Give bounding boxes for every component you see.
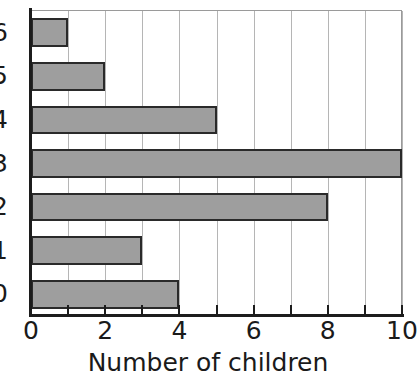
gridline [402, 11, 403, 315]
y-tick-label-2: 2 [0, 194, 8, 219]
bar-category-1 [31, 236, 142, 265]
x-tick [216, 305, 218, 314]
x-tick [104, 305, 106, 314]
x-tick [67, 305, 69, 314]
bar-category-6 [31, 18, 68, 47]
x-tick-label-4: 4 [171, 318, 187, 343]
x-tick [327, 305, 329, 314]
y-tick-label-3: 3 [0, 150, 8, 175]
x-axis-line [29, 314, 404, 317]
plot-area [31, 10, 402, 315]
x-tick [253, 305, 255, 314]
y-tick-label-1: 1 [0, 237, 8, 262]
y-axis-line [29, 8, 32, 317]
x-tick [290, 305, 292, 314]
x-tick-label-10: 10 [386, 318, 418, 343]
y-tick-label-5: 5 [0, 63, 8, 88]
x-tick [141, 305, 143, 314]
bar-category-3 [31, 149, 402, 178]
y-tick-label-0: 0 [0, 281, 8, 306]
x-tick [30, 305, 32, 314]
y-tick-label-4: 4 [0, 106, 8, 131]
x-tick-label-6: 6 [246, 318, 262, 343]
x-tick [401, 305, 403, 314]
bar-category-5 [31, 62, 105, 91]
x-tick-label-8: 8 [320, 318, 336, 343]
x-tick-label-2: 2 [97, 318, 113, 343]
bar-category-4 [31, 106, 217, 135]
x-tick [178, 305, 180, 314]
x-axis-title: Number of children [0, 350, 416, 375]
x-tick-label-0: 0 [23, 318, 39, 343]
bar-category-2 [31, 193, 328, 222]
y-tick-label-6: 6 [0, 19, 8, 44]
x-tick [364, 305, 366, 314]
